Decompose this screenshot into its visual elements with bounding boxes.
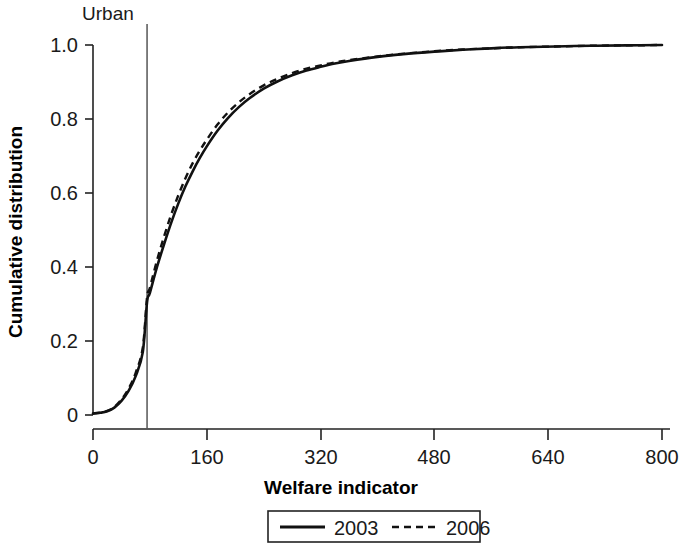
y-tick-label-1: 1.0 <box>50 34 78 56</box>
x-tick-label-0: 0 <box>87 446 98 468</box>
legend-label-2003: 2003 <box>334 517 379 539</box>
chart-background <box>0 0 679 543</box>
x-tick-label-640: 640 <box>531 446 564 468</box>
x-tick-label-160: 160 <box>190 446 223 468</box>
x-tick-label-320: 320 <box>304 446 337 468</box>
y-tick-label-08: 0.8 <box>50 108 78 130</box>
y-tick-label-02: 0.2 <box>50 330 78 352</box>
chart-legend: 2003 2006 <box>268 511 491 542</box>
chart-figure: 1.0 0.8 0.6 0.4 0.2 0 0 160 320 480 640 … <box>0 0 679 543</box>
y-tick-label-04: 0.4 <box>50 256 78 278</box>
x-axis-title: Welfare indicator <box>264 477 418 498</box>
y-tick-label-06: 0.6 <box>50 182 78 204</box>
y-axis-title: Cumulative distribution <box>5 126 26 338</box>
x-tick-label-480: 480 <box>417 446 450 468</box>
legend-label-2006: 2006 <box>446 517 491 539</box>
x-tick-label-800: 800 <box>645 446 678 468</box>
urban-reference-label: Urban <box>82 3 134 24</box>
cumulative-distribution-chart: 1.0 0.8 0.6 0.4 0.2 0 0 160 320 480 640 … <box>0 0 679 543</box>
y-tick-label-0: 0 <box>67 404 78 426</box>
